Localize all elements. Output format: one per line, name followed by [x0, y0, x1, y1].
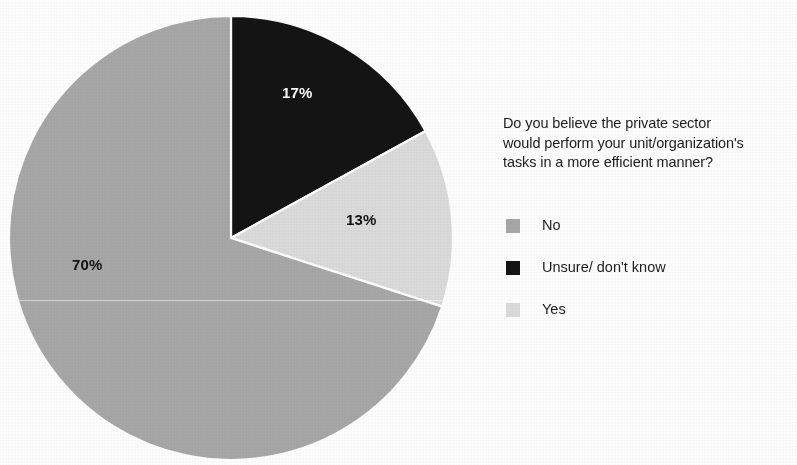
pie-chart: 17% 13% 70% — [0, 0, 480, 465]
chart-legend: No Unsure/ don't know Yes — [506, 214, 786, 340]
legend-item-unsure: Unsure/ don't know — [506, 256, 786, 298]
chart-title-line-2: would perform your unit/organization's — [503, 134, 797, 154]
legend-swatch-icon-no — [506, 219, 520, 233]
legend-item-no: No — [506, 214, 786, 256]
legend-label-no: No — [542, 214, 561, 236]
legend-item-yes: Yes — [506, 298, 786, 340]
pie-label-no: 70% — [72, 256, 103, 273]
chart-side-panel: Do you believe the private sector would … — [503, 0, 797, 465]
legend-label-unsure: Unsure/ don't know — [542, 256, 666, 278]
pie-slice-group — [9, 16, 453, 460]
pie-chart-svg — [0, 0, 480, 465]
legend-swatch-icon-unsure — [506, 261, 520, 275]
pie-label-yes: 13% — [346, 211, 377, 228]
legend-swatch-icon-yes — [506, 303, 520, 317]
chart-title-line-1: Do you believe the private sector — [503, 114, 797, 134]
chart-title: Do you believe the private sector would … — [503, 114, 797, 173]
pie-label-unsure: 17% — [282, 84, 313, 101]
chart-canvas: 17% 13% 70% Do you believe the private s… — [0, 0, 797, 465]
legend-label-yes: Yes — [542, 298, 566, 320]
chart-title-line-3: tasks in a more efficient manner? — [503, 153, 797, 173]
